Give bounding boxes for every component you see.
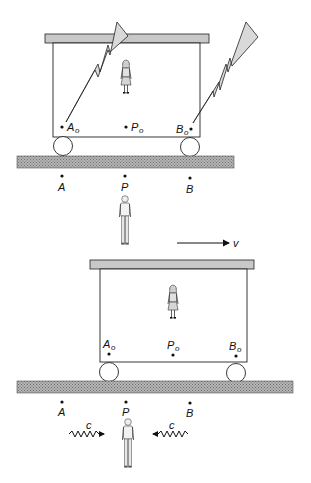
point-label: B (186, 183, 193, 195)
point-label: P (131, 121, 139, 133)
wheel (54, 137, 73, 156)
point-label: P (121, 181, 129, 193)
wheel (181, 138, 200, 157)
bottom-rail (17, 381, 293, 393)
speed-of-light-label: c (86, 419, 92, 431)
light-signal-right: c (153, 419, 188, 437)
man-observer-icon (123, 419, 134, 468)
top-ground-points: A P B (57, 174, 193, 195)
top-scene: A o P o B o A P B (17, 22, 258, 245)
point-subscript: o (237, 345, 242, 354)
point-label: A (57, 181, 65, 193)
point-label: B (176, 123, 183, 135)
bottom-ground-points: A P B (57, 400, 193, 419)
point-label: P (167, 339, 175, 351)
man-observer-icon (120, 196, 131, 245)
point-label: P (122, 406, 130, 418)
point-label: B (186, 407, 193, 419)
velocity-indicator: v (177, 237, 240, 249)
wavy-arrow-left-icon (153, 431, 188, 437)
point-label: A (57, 406, 65, 418)
point-label: A (102, 338, 110, 350)
point-label: A (66, 121, 74, 133)
light-signal-left: c (69, 419, 104, 437)
point-label: B (229, 340, 236, 352)
bottom-roof (90, 260, 254, 269)
wavy-arrow-right-icon (69, 431, 104, 437)
speed-of-light-label: c (169, 419, 175, 431)
wheel (227, 364, 246, 383)
point-subscript: o (184, 128, 189, 137)
wheel (100, 363, 119, 382)
point-subscript: o (175, 344, 180, 353)
point-subscript: o (111, 343, 116, 352)
bottom-scene: A o P o B o A P B c c (17, 260, 293, 468)
velocity-label: v (233, 237, 240, 249)
simultaneity-diagram: A o P o B o A P B v A (0, 0, 311, 483)
point-subscript: o (139, 126, 144, 135)
top-rail (17, 156, 234, 168)
point-subscript: o (75, 126, 80, 135)
